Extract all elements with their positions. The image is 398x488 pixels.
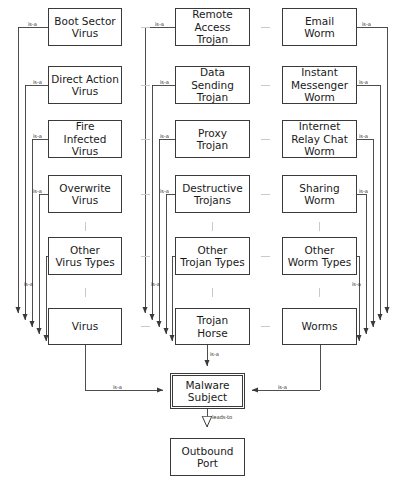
node-direct-action-virus[interactable]: Direct Action Virus <box>48 66 122 104</box>
node-label: Direct Action Virus <box>51 73 119 98</box>
malware-taxonomy-diagram: Boot Sector Virus Direct Action Virus Fi… <box>0 0 398 488</box>
node-label: Outbound Port <box>181 445 233 470</box>
node-label: Remote Access Trojan <box>192 8 233 45</box>
row-separator <box>212 222 213 231</box>
row-separator <box>319 222 320 231</box>
node-internet-relay-chat-worm[interactable]: Internet Relay Chat Worm <box>282 120 357 158</box>
node-label: Other Virus Types <box>55 244 114 269</box>
edge-label-isa: is-a <box>160 188 169 194</box>
node-label: Destructive Trojans <box>182 182 243 207</box>
node-boot-sector-virus[interactable]: Boot Sector Virus <box>48 8 122 46</box>
edge-label-isa: is-a <box>24 281 33 287</box>
column-separator <box>141 139 150 140</box>
column-separator <box>261 139 270 140</box>
node-sharing-worm[interactable]: Sharing Worm <box>282 175 357 213</box>
edge-label-isa: is-a <box>28 21 37 27</box>
node-label: Internet Relay Chat Worm <box>291 120 348 157</box>
edge-label-leads-to: leads-to <box>212 414 232 420</box>
column-separator <box>261 85 270 86</box>
row-separator <box>212 288 213 297</box>
edge-label-isa: is-a <box>33 188 42 194</box>
column-separator <box>261 256 270 257</box>
node-overwrite-virus[interactable]: Overwrite Virus <box>48 175 122 213</box>
node-remote-access-trojan[interactable]: Remote Access Trojan <box>175 8 250 46</box>
node-label: Overwrite Virus <box>59 182 111 207</box>
node-instant-messenger-worm[interactable]: Instant Messenger Worm <box>282 66 357 104</box>
node-label: Boot Sector Virus <box>54 15 115 40</box>
edge-label-isa: is-a <box>33 79 42 85</box>
edge-label-isa: is-a <box>210 351 219 357</box>
node-other-trojan-types[interactable]: Other Trojan Types <box>175 237 250 275</box>
node-label: Other Trojan Types <box>180 244 244 269</box>
edge-label-isa: is-a <box>362 21 371 27</box>
row-separator <box>319 288 320 297</box>
node-destructive-trojans[interactable]: Destructive Trojans <box>175 175 250 213</box>
row-separator <box>85 222 86 231</box>
node-data-sending-trojan[interactable]: Data Sending Trojan <box>175 66 250 104</box>
node-fire-infected-virus[interactable]: Fire Infected Virus <box>48 120 122 158</box>
edge-label-isa: is-a <box>359 79 368 85</box>
node-label: Malware Subject <box>186 379 230 404</box>
node-other-worm-types[interactable]: Other Worm Types <box>282 237 357 275</box>
node-label: Data Sending Trojan <box>191 66 234 103</box>
node-label: Other Worm Types <box>288 244 351 269</box>
edge-label-isa: is-a <box>33 133 42 139</box>
node-email-worm[interactable]: Email Worm <box>282 8 357 46</box>
node-label: Fire Infected Virus <box>64 120 107 157</box>
column-separator <box>141 256 150 257</box>
edge-label-isa: is-a <box>359 133 368 139</box>
node-worms[interactable]: Worms <box>282 308 357 345</box>
node-label: Worms <box>301 320 337 332</box>
node-label: Email Worm <box>304 15 335 40</box>
edge-label-isa: is-a <box>278 384 287 390</box>
edge-label-isa: is-a <box>359 188 368 194</box>
node-label: Trojan Horse <box>197 314 228 339</box>
column-separator <box>141 27 150 28</box>
node-malware-subject[interactable]: Malware Subject <box>170 373 245 409</box>
node-label: Proxy Trojan <box>197 127 228 152</box>
edge-label-isa: is-a <box>352 281 361 287</box>
edge-label-isa: is-a <box>160 133 169 139</box>
edge-label-isa: is-a <box>155 21 164 27</box>
edge-label-isa: is-a <box>160 79 169 85</box>
node-trojan-horse[interactable]: Trojan Horse <box>175 308 250 345</box>
row-separator <box>85 288 86 297</box>
column-separator <box>261 326 270 327</box>
column-separator <box>141 194 150 195</box>
node-label: Sharing Worm <box>299 182 339 207</box>
node-outbound-port[interactable]: Outbound Port <box>170 438 245 476</box>
node-proxy-trojan[interactable]: Proxy Trojan <box>175 120 250 158</box>
column-separator <box>261 27 270 28</box>
column-separator <box>261 194 270 195</box>
edge-label-isa: is-a <box>113 384 122 390</box>
edge-label-isa: is-a <box>151 281 160 287</box>
node-other-virus-types[interactable]: Other Virus Types <box>48 237 122 275</box>
column-separator <box>141 85 150 86</box>
node-label: Instant Messenger Worm <box>291 66 348 103</box>
node-virus[interactable]: Virus <box>48 308 122 345</box>
node-label: Virus <box>72 320 98 332</box>
column-separator <box>141 326 150 327</box>
